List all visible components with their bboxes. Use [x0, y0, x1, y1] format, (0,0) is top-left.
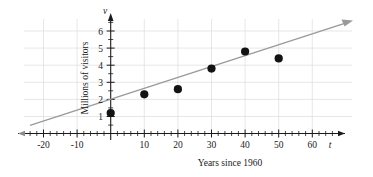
y-tick-label: 5	[98, 44, 103, 54]
data-point	[140, 90, 148, 98]
y-tick-label: 6	[98, 27, 103, 37]
y-axis	[108, 13, 114, 140]
y-tick-label: 3	[98, 78, 103, 88]
x-tick-label: -20	[37, 140, 50, 150]
trend-line	[30, 20, 353, 126]
x-tick-label: -10	[71, 140, 84, 150]
x-axis-arrow-right	[338, 131, 345, 136]
y-axis-arrow-up	[108, 13, 114, 21]
data-point	[241, 47, 249, 55]
y-tick-label: 2	[98, 95, 103, 105]
data-point	[207, 65, 215, 73]
x-tick-label: 20	[173, 140, 183, 150]
y-tick-label: 1	[98, 112, 103, 122]
data-point	[107, 109, 115, 117]
x-axis-title: Years since 1960	[198, 158, 263, 168]
x-axis-variable-label: t	[329, 140, 332, 150]
x-tick-label: 10	[140, 140, 150, 150]
x-axis	[18, 131, 345, 136]
data-point	[174, 85, 182, 93]
x-tick-label: 30	[207, 140, 217, 150]
x-tick-label: 40	[240, 140, 250, 150]
y-axis-variable-label: v	[103, 6, 108, 16]
scatter-plot-canvas: 1 2 3 4 5 6 -20 -10 10 20 30 40 50 60 v …	[0, 0, 373, 177]
chart-figure: 1 2 3 4 5 6 -20 -10 10 20 30 40 50 60 v …	[0, 0, 373, 177]
data-point	[275, 54, 283, 62]
y-tick-labels: 1 2 3 4 5 6	[98, 27, 103, 123]
trend-line-arrow	[342, 20, 354, 27]
y-axis-title: Millions of visitors	[80, 41, 90, 114]
y-tick-label: 4	[98, 61, 103, 71]
x-tick-label: 50	[274, 140, 284, 150]
x-axis-arrow-left	[18, 131, 25, 136]
x-tick-label: 60	[308, 140, 318, 150]
x-tick-labels: -20 -10 10 20 30 40 50 60	[37, 140, 317, 150]
